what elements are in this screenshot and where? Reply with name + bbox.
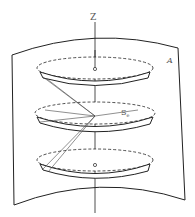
diagram-svg: Z A Se [0,0,195,217]
bottom-disc-center [93,163,96,166]
bottom-disc [37,149,153,178]
surface-a-label: A [166,56,173,65]
diagram-canvas: Z A Se [0,0,195,217]
z-axis-label: Z [90,12,96,22]
middle-disc [35,102,155,132]
top-disc-center [93,67,96,70]
